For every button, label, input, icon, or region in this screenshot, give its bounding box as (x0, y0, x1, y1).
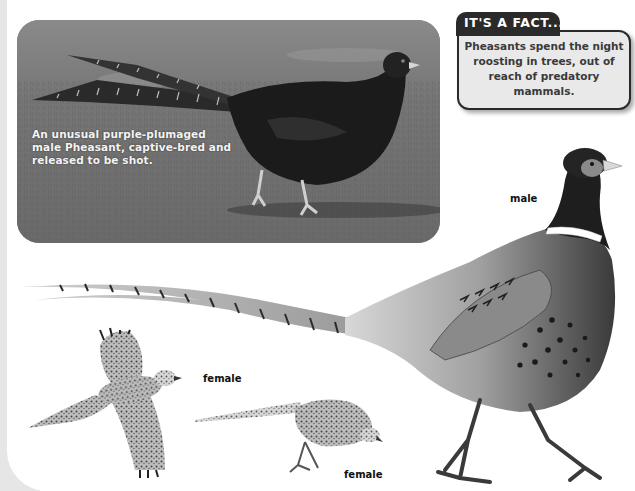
female-flying-illustration (28, 328, 182, 478)
label-female-flying: female (203, 373, 242, 384)
label-male: male (510, 193, 537, 204)
label-female-feeding: female (344, 469, 383, 480)
pheasant-illustrations (0, 0, 635, 491)
female-feeding-illustration (195, 400, 383, 472)
